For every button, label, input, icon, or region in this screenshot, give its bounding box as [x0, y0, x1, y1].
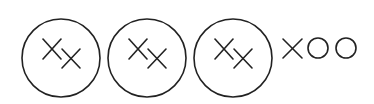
- trailing-x-icon: [283, 39, 302, 58]
- x-mark-icon: [148, 49, 166, 68]
- circle-group-2: [108, 19, 186, 97]
- trailing-o-icon-1: [308, 38, 328, 58]
- x-mark-icon: [215, 39, 233, 59]
- trailing-o-icon-2: [336, 38, 356, 58]
- circle-group-3: [194, 19, 272, 97]
- x-mark-icon: [62, 49, 80, 68]
- x-mark-icon: [129, 39, 147, 59]
- x-mark-icon: [43, 39, 61, 59]
- x-mark-icon: [234, 49, 252, 68]
- diagram-canvas: [0, 0, 374, 104]
- circle-group-1: [22, 19, 100, 97]
